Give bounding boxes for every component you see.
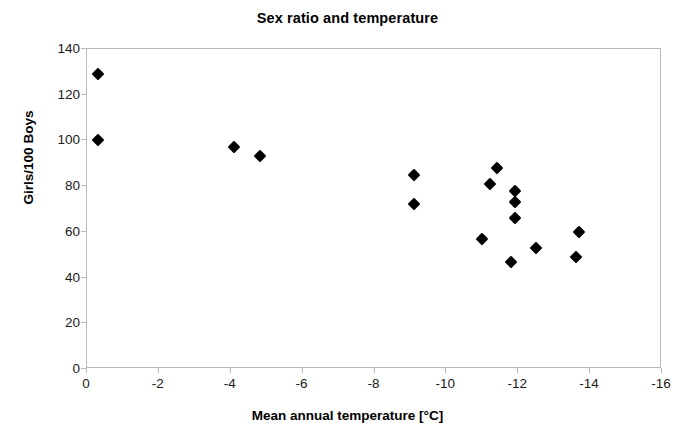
x-tick-label: 0: [56, 376, 116, 391]
x-tick-label: -4: [200, 376, 260, 391]
y-tick-label: 60: [2, 223, 80, 238]
x-tick-mark: [86, 368, 87, 373]
y-tick-label: 20: [2, 315, 80, 330]
y-tick-label: 100: [2, 132, 80, 147]
data-point: [505, 255, 518, 268]
x-tick-label: -6: [272, 376, 332, 391]
x-tick-label: -12: [487, 376, 547, 391]
data-point: [91, 134, 104, 147]
data-point: [476, 232, 489, 245]
data-point: [483, 177, 496, 190]
data-point: [573, 225, 586, 238]
x-tick-mark: [517, 368, 518, 373]
data-point: [408, 168, 421, 181]
data-point: [530, 241, 543, 254]
y-tick-label: 0: [2, 361, 80, 376]
scatter-chart: Sex ratio and temperature Girls/100 Boys…: [0, 0, 695, 446]
x-tick-mark: [158, 368, 159, 373]
y-tick-label: 120: [2, 86, 80, 101]
plot-area: [86, 48, 661, 368]
x-tick-label: -2: [128, 376, 188, 391]
data-points-layer: [87, 49, 660, 367]
y-tick-label: 80: [2, 178, 80, 193]
x-tick-label: -14: [559, 376, 619, 391]
x-tick-mark: [230, 368, 231, 373]
data-point: [253, 150, 266, 163]
data-point: [508, 212, 521, 225]
x-tick-label: -8: [344, 376, 404, 391]
x-tick-label: -10: [415, 376, 475, 391]
x-tick-mark: [589, 368, 590, 373]
chart-title: Sex ratio and temperature: [0, 10, 695, 26]
data-point: [228, 141, 241, 154]
data-point: [508, 196, 521, 209]
x-tick-mark: [374, 368, 375, 373]
data-point: [569, 251, 582, 264]
y-tick-label: 140: [2, 41, 80, 56]
x-tick-mark: [445, 368, 446, 373]
x-tick-mark: [302, 368, 303, 373]
data-point: [490, 161, 503, 174]
x-tick-label: -16: [631, 376, 691, 391]
y-tick-label: 40: [2, 269, 80, 284]
data-point: [91, 68, 104, 81]
x-tick-mark: [661, 368, 662, 373]
data-point: [408, 198, 421, 211]
x-axis-title: Mean annual temperature [°C]: [0, 408, 695, 423]
